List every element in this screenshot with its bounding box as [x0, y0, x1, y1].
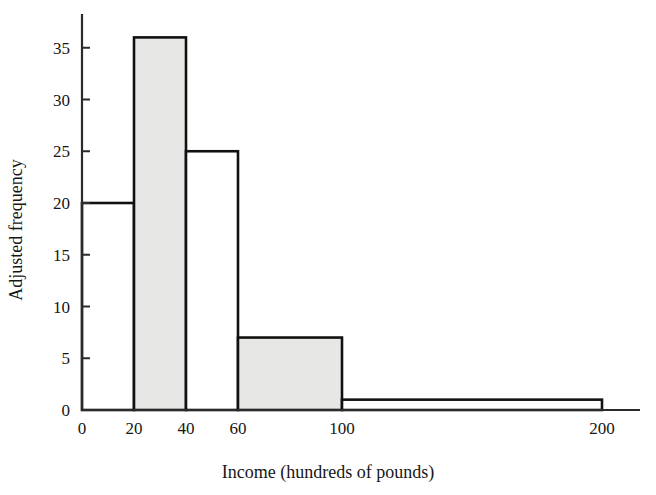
y-tick-label: 30: [53, 91, 70, 110]
histogram-bar: [342, 400, 602, 410]
y-axis-title: Adjusted frequency: [6, 159, 26, 300]
x-tick-label: 20: [126, 419, 143, 438]
y-tick-label: 15: [53, 246, 70, 265]
x-tick-label: 60: [230, 419, 247, 438]
x-tick-label: 100: [329, 419, 355, 438]
x-tick-label: 0: [78, 419, 87, 438]
x-tick-label: 200: [589, 419, 615, 438]
x-axis-title: Income (hundreds of pounds): [222, 462, 434, 483]
histogram-bar: [238, 338, 342, 410]
histogram-figure: 05101520253035 0204060100200 Income (hun…: [0, 0, 656, 495]
histogram-bar: [186, 151, 238, 410]
y-tick-label: 0: [62, 401, 71, 420]
histogram-svg: 05101520253035 0204060100200 Income (hun…: [0, 0, 656, 495]
x-tick-label: 40: [178, 419, 195, 438]
y-tick-label: 5: [62, 349, 71, 368]
y-tick-label: 20: [53, 194, 70, 213]
y-tick-label: 10: [53, 298, 70, 317]
y-tick-label: 25: [53, 142, 70, 161]
histogram-bar: [134, 37, 186, 410]
y-tick-label: 35: [53, 39, 70, 58]
